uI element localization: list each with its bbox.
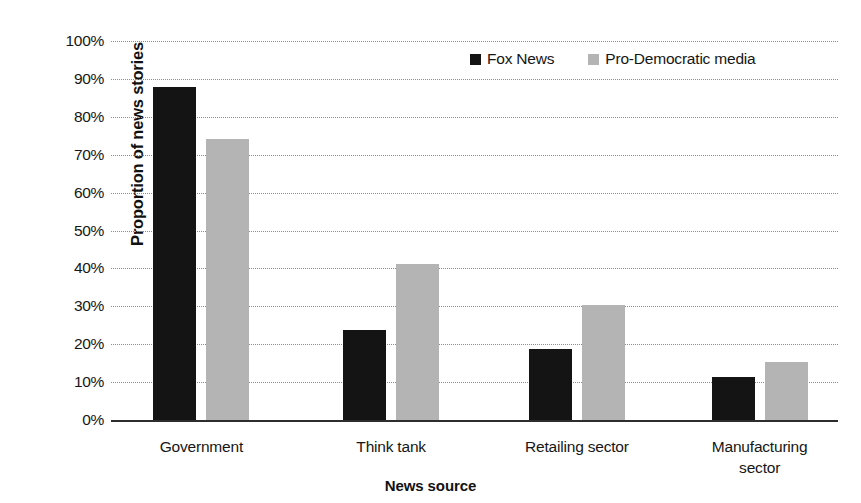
- x-axis-tick-label: Retailing sector: [487, 436, 667, 457]
- bar-1-3: [765, 362, 808, 421]
- x-axis-title: News source: [0, 477, 861, 494]
- bar-0-0: [153, 87, 196, 421]
- legend-swatch-icon: [588, 54, 599, 65]
- bar-0-1: [343, 330, 386, 421]
- gridline: [111, 41, 838, 42]
- x-axis-tick-label: Think tank: [301, 436, 481, 457]
- legend-label: Pro-Democratic media: [605, 50, 755, 68]
- y-axis-tick-label: 80%: [42, 109, 104, 125]
- legend-label: Fox News: [487, 50, 554, 68]
- x-axis-line: [111, 420, 838, 422]
- plot-area: [111, 41, 838, 421]
- x-axis-tick-label-line: Think tank: [301, 436, 481, 457]
- x-axis-tick-label: Government: [111, 436, 291, 457]
- y-axis-tick-label: 0%: [42, 412, 104, 428]
- y-axis-tick-label: 20%: [42, 336, 104, 352]
- x-axis-tick-label-line: Government: [111, 436, 291, 457]
- y-axis-tick-label: 60%: [42, 185, 104, 201]
- y-axis-tick-labels: 0%10%20%30%40%50%60%70%80%90%100%: [42, 0, 104, 503]
- bar-1-2: [582, 305, 625, 421]
- x-axis-tick-label-line: sector: [670, 457, 850, 478]
- legend-swatch-icon: [470, 54, 481, 65]
- x-axis-tick-label-line: Retailing sector: [487, 436, 667, 457]
- bar-1-0: [206, 139, 249, 421]
- y-axis-tick-label: 100%: [42, 33, 104, 49]
- x-axis-tick-label: Manufacturingsector: [670, 436, 850, 478]
- bar-1-1: [396, 264, 439, 421]
- legend-item-0[interactable]: Fox News: [470, 50, 554, 68]
- gridline: [111, 117, 838, 118]
- y-axis-tick-label: 30%: [42, 298, 104, 314]
- y-axis-tick-label: 90%: [42, 71, 104, 87]
- bar-0-2: [529, 349, 572, 421]
- y-axis-tick-label: 50%: [42, 223, 104, 239]
- y-axis-tick-label: 10%: [42, 374, 104, 390]
- chart-screenshot: Proportion of news stories 0%10%20%30%40…: [0, 0, 861, 503]
- y-axis-tick-label: 70%: [42, 147, 104, 163]
- x-axis-tick-label-line: Manufacturing: [670, 436, 850, 457]
- gridline: [111, 79, 838, 80]
- chart-legend: Fox NewsPro-Democratic media: [470, 48, 790, 70]
- legend-item-1[interactable]: Pro-Democratic media: [588, 50, 755, 68]
- y-axis-tick-label: 40%: [42, 260, 104, 276]
- bar-0-3: [712, 377, 755, 421]
